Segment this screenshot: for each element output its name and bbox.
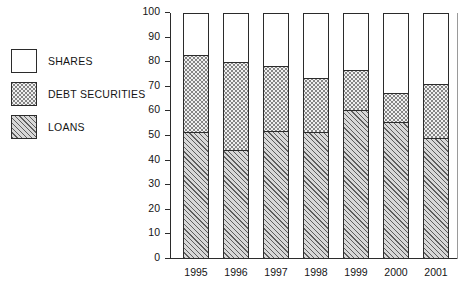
- y-axis-tick-label: 30: [134, 177, 160, 189]
- bar-group: 1997: [263, 13, 289, 259]
- bar-segment-loans-1997: [263, 131, 289, 259]
- y-axis-tick: 100: [165, 12, 170, 13]
- y-axis-tick-label: 80: [134, 54, 160, 66]
- y-axis-tick-label: 70: [134, 79, 160, 91]
- legend-label-shares: SHARES: [48, 55, 93, 67]
- bar-segment-loans-1999: [343, 110, 369, 259]
- bar-group: 1995: [183, 13, 209, 259]
- plot-right-border: [457, 13, 458, 259]
- y-axis-tick: 60: [165, 110, 170, 111]
- bar-group: 2001: [423, 13, 449, 259]
- y-axis-tick-label: 40: [134, 153, 160, 165]
- legend-item-loans: LOANS: [11, 110, 151, 143]
- bar-segment-loans-1998: [303, 132, 329, 259]
- x-axis-tick-label: 2000: [384, 266, 407, 278]
- legend-item-shares: SHARES: [11, 44, 151, 77]
- x-axis-tick-label: 2001: [424, 266, 447, 278]
- bar-group: 2000: [383, 13, 409, 259]
- bar-segment-loans-2001: [423, 138, 449, 259]
- x-axis-tick-label: 1997: [264, 266, 287, 278]
- bar-segment-loans-2000: [383, 122, 409, 259]
- legend-item-debt-securities: DEBT SECURITIES: [11, 77, 151, 110]
- y-axis-tick: 30: [165, 184, 170, 185]
- bar-segment-loans-1995: [183, 132, 209, 259]
- y-axis-tick: 80: [165, 61, 170, 62]
- bar-group: 1999: [343, 13, 369, 259]
- bar-segment-loans-1996: [223, 150, 249, 259]
- y-axis-tick: 40: [165, 160, 170, 161]
- y-axis-tick-label: 10: [134, 226, 160, 238]
- y-axis-tick: 90: [165, 37, 170, 38]
- legend-swatch-loans-icon: [11, 115, 37, 139]
- x-axis-tick-label: 1996: [224, 266, 247, 278]
- y-axis-line: [170, 13, 171, 259]
- legend-label-debt-securities: DEBT SECURITIES: [48, 88, 146, 100]
- bar-group: 1996: [223, 13, 249, 259]
- y-axis-tick: 0: [165, 258, 170, 259]
- y-axis-tick: 20: [165, 209, 170, 210]
- legend-swatch-debt-securities-icon: [11, 82, 37, 106]
- x-axis-tick-label: 1995: [184, 266, 207, 278]
- y-axis-tick-label: 60: [134, 103, 160, 115]
- y-axis-tick-label: 50: [134, 128, 160, 140]
- x-axis-tick-label: 1998: [304, 266, 327, 278]
- y-axis-tick-label: 100: [134, 5, 160, 17]
- stacked-bar-chart-figure: SHARES DEBT SECURITIES LOANS 01020304050…: [0, 0, 475, 286]
- y-axis-tick-label: 0: [134, 251, 160, 263]
- y-axis-tick-label: 20: [134, 202, 160, 214]
- legend-swatch-shares-icon: [11, 49, 37, 73]
- y-axis-tick: 70: [165, 86, 170, 87]
- chart-legend: SHARES DEBT SECURITIES LOANS: [11, 44, 151, 143]
- x-axis-tick-label: 1999: [344, 266, 367, 278]
- bar-group: 1998: [303, 13, 329, 259]
- plot-area: 0102030405060708090100 19951996199719981…: [170, 13, 457, 259]
- y-axis-tick: 10: [165, 233, 170, 234]
- y-axis-tick-label: 90: [134, 30, 160, 42]
- y-axis-tick: 50: [165, 135, 170, 136]
- legend-label-loans: LOANS: [48, 121, 85, 133]
